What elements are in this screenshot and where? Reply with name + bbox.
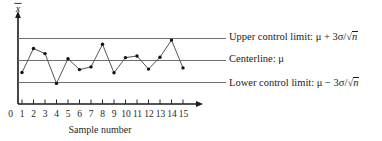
x-tick-label: 9 bbox=[112, 109, 117, 119]
lcl-formula-prefix: μ − 3σ/ bbox=[317, 77, 348, 88]
data-point bbox=[158, 56, 161, 59]
x-tick-label: 5 bbox=[66, 109, 71, 119]
upper-control-limit-label: Upper control limit: μ + 3σ/√n bbox=[229, 30, 358, 43]
x-tick-label: 2 bbox=[31, 109, 36, 119]
x-axis-title: Sample number bbox=[68, 124, 132, 135]
data-point bbox=[181, 66, 184, 69]
x-axis-arrowhead bbox=[196, 101, 203, 107]
x-tick-label: 12 bbox=[144, 109, 154, 119]
x-tick-label: 0 bbox=[8, 109, 13, 119]
data-point bbox=[32, 47, 35, 50]
x-tick-label: 6 bbox=[77, 109, 82, 119]
data-point bbox=[78, 68, 81, 71]
control-chart-figure: 0 1 2 3 4 5 6 7 8 9 10 11 12 13 14 15 Sa… bbox=[0, 0, 382, 141]
sample-mean-series bbox=[20, 38, 184, 85]
data-point bbox=[147, 67, 150, 70]
x-tick-label: 13 bbox=[156, 109, 166, 119]
centerline-label: Centerline: μ bbox=[229, 54, 284, 65]
x-tick-label: 7 bbox=[89, 109, 94, 119]
data-point bbox=[66, 57, 69, 60]
ucl-radicand: n bbox=[352, 31, 358, 43]
x-tick-label: 15 bbox=[179, 109, 189, 119]
ucl-label-name: Upper control limit: bbox=[229, 31, 313, 42]
axes-group bbox=[15, 11, 203, 107]
data-point bbox=[124, 56, 127, 59]
lcl-radicand: n bbox=[353, 77, 359, 89]
x-tick-label: 11 bbox=[133, 109, 142, 119]
x-tick-label: 14 bbox=[167, 109, 177, 119]
lower-control-limit-label: Lower control limit: μ − 3σ/√n bbox=[229, 76, 359, 89]
data-point bbox=[135, 54, 138, 57]
control-limit-lines bbox=[18, 39, 226, 83]
centerline-formula: μ bbox=[278, 53, 284, 64]
x-tick-label: 3 bbox=[43, 109, 48, 119]
x-tick-label: 10 bbox=[121, 109, 131, 119]
data-point bbox=[55, 82, 58, 85]
data-point bbox=[20, 71, 23, 74]
data-point bbox=[43, 52, 46, 55]
x-tick-label: 8 bbox=[100, 109, 105, 119]
data-point bbox=[112, 71, 115, 74]
centerline-label-name: Centerline: bbox=[229, 53, 276, 64]
data-point bbox=[89, 65, 92, 68]
series-polyline bbox=[22, 40, 183, 83]
lcl-label-name: Lower control limit: bbox=[229, 77, 314, 88]
ucl-sqrt: √n bbox=[346, 30, 358, 43]
chart-canvas: 0 1 2 3 4 5 6 7 8 9 10 11 12 13 14 15 Sa… bbox=[0, 0, 382, 141]
x-axis-tick-labels: 0 1 2 3 4 5 6 7 8 9 10 11 12 13 14 15 bbox=[8, 109, 188, 119]
y-axis-label: x bbox=[14, 3, 21, 14]
y-axis-label-text: x bbox=[15, 3, 21, 14]
x-tick-label: 1 bbox=[20, 109, 25, 119]
lcl-sqrt: √n bbox=[347, 76, 359, 89]
ucl-formula-prefix: μ + 3σ/ bbox=[316, 31, 347, 42]
data-point bbox=[170, 38, 173, 41]
x-tick-label: 4 bbox=[54, 109, 59, 119]
data-point bbox=[101, 43, 104, 46]
